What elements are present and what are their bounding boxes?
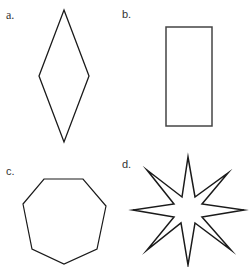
eight-pointed-star-shape [133, 157, 244, 265]
rhombus-shape [39, 10, 89, 142]
heptagon-shape [23, 179, 106, 264]
shapes-canvas [0, 0, 250, 267]
rectangle-shape [166, 27, 212, 126]
